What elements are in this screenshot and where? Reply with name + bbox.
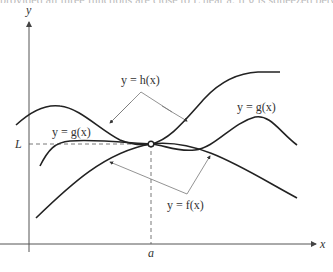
label-f: y = f(x): [167, 198, 204, 212]
label-g-right: y = g(x): [237, 100, 276, 114]
leader-h-arrow-right: [162, 106, 187, 121]
x-axis-label: x: [319, 237, 326, 251]
leader-h: [110, 92, 172, 123]
squeeze-theorem-diagram: y x L a y = h(x) y = g(x) y = g(x) y = f…: [0, 0, 333, 272]
leader-h-arrow-left: [110, 102, 131, 123]
leader-f-left: [110, 162, 187, 194]
y-axis-label: y: [25, 3, 32, 17]
label-h: y = h(x): [121, 73, 160, 87]
label-g-left: y = g(x): [52, 125, 91, 139]
limit-label-L: L: [14, 137, 22, 151]
point-label-a: a: [148, 246, 154, 260]
open-point-a-L: [148, 141, 154, 147]
leader-f-right: [187, 156, 210, 194]
